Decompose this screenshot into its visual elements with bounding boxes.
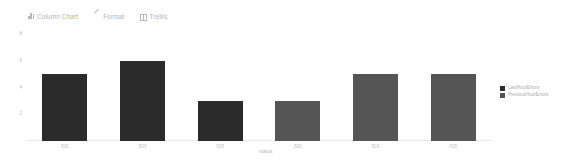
bar[interactable] bbox=[431, 74, 476, 141]
x-axis-tick-label: 503 bbox=[372, 145, 380, 150]
legend-item[interactable]: PreviousHourErrors bbox=[500, 93, 548, 98]
grid-icon bbox=[140, 13, 146, 19]
bar-chart-icon bbox=[28, 13, 34, 19]
toolbar-item-label: Trellis bbox=[149, 13, 167, 20]
trellis-panel: 500503505 bbox=[259, 34, 492, 141]
y-axis-tick-label: 4 bbox=[19, 85, 22, 90]
chart-toolbar: Column Chart Format Trellis bbox=[28, 9, 167, 23]
y-axis-tick-label: 8 bbox=[19, 32, 22, 37]
bar[interactable] bbox=[42, 74, 87, 141]
legend-label: LastHourErrors bbox=[508, 86, 539, 91]
y-axis-tick-label: 6 bbox=[19, 58, 22, 63]
plot-area: 2468 500503505500503505 bbox=[26, 34, 492, 141]
legend-swatch bbox=[500, 93, 505, 98]
bar[interactable] bbox=[120, 61, 165, 141]
bar[interactable] bbox=[198, 101, 243, 141]
toolbar-item-label: Column Chart bbox=[37, 13, 78, 20]
y-axis-tick-label: 2 bbox=[19, 112, 22, 117]
toolbar-item-column-chart[interactable]: Column Chart bbox=[28, 13, 78, 20]
toolbar-item-format[interactable]: Format bbox=[94, 13, 124, 20]
chart-legend: LastHourErrorsPreviousHourErrors bbox=[500, 86, 548, 98]
bar[interactable] bbox=[275, 101, 320, 141]
legend-item[interactable]: LastHourErrors bbox=[500, 86, 548, 91]
x-axis-tick-label: 505 bbox=[449, 145, 457, 150]
x-axis-tick-label: 503 bbox=[139, 145, 147, 150]
trellis-panel: 500503505 bbox=[26, 34, 259, 141]
trellis-bar-chart: 2468 500503505500503505 status bbox=[0, 28, 572, 165]
x-axis-tick-label: 500 bbox=[61, 145, 69, 150]
x-axis-tick-label: 505 bbox=[216, 145, 224, 150]
toolbar-item-trellis[interactable]: Trellis bbox=[140, 13, 167, 20]
toolbar-item-label: Format bbox=[103, 13, 124, 20]
bar[interactable] bbox=[353, 74, 398, 141]
x-axis-tick-label: 500 bbox=[294, 145, 302, 150]
x-axis-title: status bbox=[259, 149, 272, 154]
legend-swatch bbox=[500, 86, 505, 91]
pencil-icon bbox=[94, 13, 100, 19]
legend-label: PreviousHourErrors bbox=[508, 93, 548, 98]
